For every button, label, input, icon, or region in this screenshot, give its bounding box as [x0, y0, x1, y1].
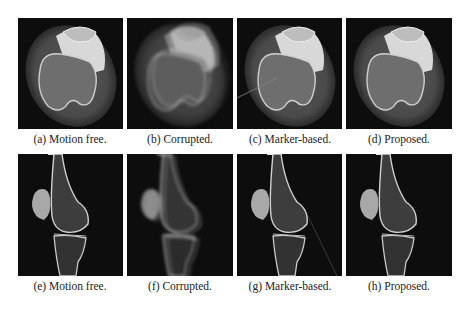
- image-d-proposed-axial: [346, 18, 452, 129]
- image-b-corrupted-axial: [127, 18, 233, 129]
- caption-d: (d) Proposed.: [334, 133, 464, 145]
- image-g-marker-based-sagittal: [237, 154, 342, 276]
- image-a-motion-free-axial: [18, 18, 123, 129]
- image-h-proposed-sagittal: [346, 154, 452, 276]
- image-f-corrupted-sagittal: [127, 154, 233, 276]
- image-c-marker-based-axial: [237, 18, 342, 129]
- image-e-motion-free-sagittal: [18, 154, 123, 276]
- caption-h: (h) Proposed.: [334, 280, 464, 292]
